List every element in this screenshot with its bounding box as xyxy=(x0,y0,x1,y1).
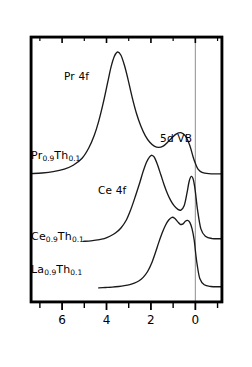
x-tick-label-6: 6 xyxy=(52,314,72,326)
spectra-curves xyxy=(31,52,222,288)
sample-label-ce: Ce0.9Th0.1 xyxy=(31,231,84,244)
sample-label-pr: Pr0.9Th0.1 xyxy=(31,150,80,163)
spectrum-curve-Ce0.9Th0.1 xyxy=(83,155,222,241)
x-tick-label-0: 0 xyxy=(185,314,205,326)
annotation-pr4f: Pr 4f xyxy=(64,71,89,82)
x-tick-label-4: 4 xyxy=(97,314,117,326)
annotation-ce4f: Ce 4f xyxy=(98,185,127,196)
x-tick-label-2: 2 xyxy=(141,314,161,326)
annotation-5dvb: 5d VB xyxy=(160,133,192,144)
sample-label-la: La0.9Th0.1 xyxy=(31,264,82,277)
photoemission-figure: hν=70 eV INTENSITY (arb. u.) BINDING ENE… xyxy=(0,0,252,367)
spectrum-curve-La0.9Th0.1 xyxy=(99,217,222,288)
